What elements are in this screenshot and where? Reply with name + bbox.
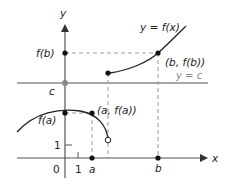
function-graph: y x f(b) c y = f(x) (b, f(b)) y = c f(a)…	[0, 0, 228, 196]
point-a-on-x-axis	[89, 155, 94, 160]
point-f-of-a	[62, 110, 67, 115]
label-b: b	[155, 162, 162, 174]
label-f-of-b: f(b)	[36, 47, 55, 59]
point-c	[62, 80, 68, 86]
label-a: a	[89, 163, 95, 175]
curve-lower	[17, 110, 108, 138]
point-b-on-x-axis	[155, 155, 160, 160]
label-point-a: (a, f(a))	[97, 104, 137, 116]
label-c: c	[49, 85, 55, 97]
label-y-tick-1: 1	[54, 139, 61, 151]
point-a-fa	[89, 110, 94, 115]
point-f-of-b	[62, 50, 67, 55]
label-f-of-a: f(a)	[38, 114, 56, 126]
point-b-fb	[155, 50, 160, 55]
label-curve: y = f(x)	[139, 21, 180, 33]
y-axis-label: y	[59, 7, 67, 19]
label-point-b: (b, f(b))	[165, 56, 205, 68]
point-upper-start	[105, 70, 110, 75]
label-line-c: y = c	[175, 70, 203, 81]
label-x-tick-1: 1	[75, 163, 82, 175]
open-circle-endpoint	[105, 137, 111, 143]
x-axis-label: x	[211, 152, 219, 164]
label-origin: 0	[53, 163, 60, 175]
